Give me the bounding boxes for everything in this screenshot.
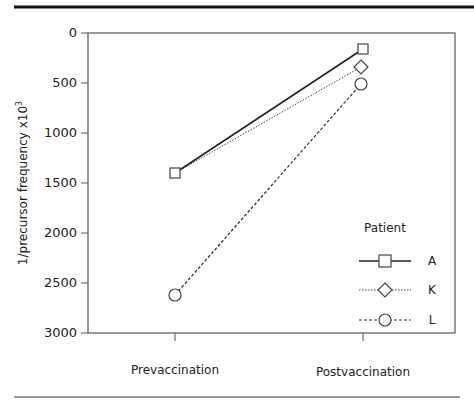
series-k	[175, 67, 361, 173]
marker-a-post	[358, 44, 368, 54]
y-tick-label: 0	[69, 25, 77, 40]
svg-text:L: L	[429, 313, 436, 327]
svg-text:K: K	[428, 283, 437, 297]
legend-item-a: A	[359, 254, 437, 268]
marker-l-post	[355, 78, 367, 90]
plot-frame	[88, 33, 455, 333]
y-tick-label: 1000	[44, 125, 77, 140]
series-a	[175, 49, 363, 173]
legend-item-l: L	[359, 313, 436, 327]
svg-text:A: A	[428, 254, 437, 268]
marker-k-post	[354, 60, 368, 74]
legend: Patient A K L	[359, 221, 437, 327]
chart: 0 500 1000 1500 2000 2500 3000 1/precurs…	[0, 0, 474, 401]
y-tick-label: 2500	[44, 275, 77, 290]
marker-a-pre	[170, 168, 180, 178]
marker-l-pre	[169, 289, 181, 301]
x-axis: Prevaccination Postvaccination	[131, 333, 410, 379]
legend-item-k: K	[359, 283, 437, 297]
y-tick-label: 1500	[44, 175, 77, 190]
x-category-postvaccination: Postvaccination	[316, 365, 410, 379]
y-axis-title: 1/precursor frequency x103	[15, 101, 30, 265]
y-axis: 0 500 1000 1500 2000 2500 3000	[44, 25, 88, 340]
legend-title: Patient	[364, 221, 406, 235]
series-l	[175, 84, 361, 295]
x-category-prevaccination: Prevaccination	[131, 363, 219, 377]
y-tick-label: 3000	[44, 325, 77, 340]
y-tick-label: 2000	[44, 225, 77, 240]
y-tick-label: 500	[52, 75, 77, 90]
